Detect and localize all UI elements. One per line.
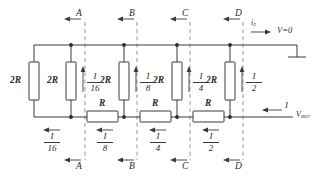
top-rail-group	[34, 45, 306, 62]
cut-arrow-bottom-group	[64, 158, 240, 163]
bottom-current-1-denominator: 8	[97, 142, 113, 153]
shunt-b-current-denominator: 8	[140, 82, 156, 93]
cut-arrow-top-c-head	[170, 17, 176, 22]
bottom-current-3-numerator: I	[203, 132, 219, 142]
cut-label-bottom-c: C	[182, 162, 188, 172]
shunt-a-current-label: I 16	[87, 72, 103, 93]
series-resistor-3	[193, 111, 224, 122]
circuit-diagram-figure: 2R 2R 2R 2R 2R I 16 I 8 I 4 I 2 R R R I …	[0, 0, 321, 177]
shunt-c-current-arrowhead	[187, 66, 192, 72]
node-b-bottom	[122, 115, 126, 119]
cut-label-bottom-d: D	[235, 162, 242, 172]
cut-arrow-top-a-head	[64, 17, 70, 22]
bottom-current-2-denominator: 4	[150, 142, 166, 153]
series-resistor-1-body	[87, 111, 118, 122]
shunt-a-current-numerator: I	[87, 72, 103, 82]
series-resistor-2-body	[140, 111, 171, 122]
source-current-label: I	[285, 101, 288, 110]
series-resistor-1	[87, 111, 118, 122]
cut-label-top-a: A	[76, 9, 82, 19]
bottom-current-label-1: I 8	[97, 132, 113, 153]
cut-arrow-bottom-c-head	[170, 158, 176, 163]
bottom-current-label-2: I 4	[150, 132, 166, 153]
bottom-current-2-numerator: I	[150, 132, 166, 142]
node-c-bottom	[175, 115, 179, 119]
shunt-d-current-numerator: I	[246, 72, 262, 82]
series-resistor-2	[140, 111, 171, 122]
source-current-arrow-group	[262, 108, 282, 113]
cut-arrow-bottom-b-head	[117, 158, 123, 163]
cut-arrow-bottom-a-head	[64, 158, 70, 163]
shunt-d-current-arrowhead	[240, 66, 245, 72]
cut-label-bottom-b: B	[129, 162, 135, 172]
reference-voltage-label: VREF	[296, 111, 310, 120]
shunt-resistor-a-label: 2R	[47, 76, 58, 86]
cut-arrow-top-group	[64, 17, 240, 22]
bottom-current-arrow-group	[43, 128, 219, 133]
shunt-resistor-term-body	[29, 62, 39, 100]
shunt-b-current-arrowhead	[134, 66, 139, 72]
bottom-current-0-denominator: 16	[44, 142, 60, 153]
node-c-top	[175, 43, 179, 47]
cut-label-bottom-a: A	[76, 162, 82, 172]
shunt-branch-a	[66, 43, 85, 119]
series-resistor-1-label: R	[99, 99, 105, 109]
source-current-arrow-head	[262, 108, 268, 113]
node-b-top	[122, 43, 126, 47]
ground-voltage-label: V=0	[277, 26, 292, 35]
sum-current-arrow-head	[265, 30, 271, 35]
shunt-resistor-c-body	[172, 62, 182, 100]
cut-arrow-top-b-head	[117, 17, 123, 22]
shunt-branch-b	[119, 43, 138, 119]
cut-label-top-c: C	[182, 9, 188, 19]
sum-current-arrow-group	[251, 30, 271, 35]
shunt-resistor-a-body	[66, 62, 76, 100]
node-d-bottom	[228, 115, 232, 119]
shunt-resistor-term-label: 2R	[10, 76, 21, 86]
node-a-bottom	[69, 115, 73, 119]
bottom-current-0-numerator: I	[44, 132, 60, 142]
cut-label-top-d: D	[235, 9, 242, 19]
node-a-top	[69, 43, 73, 47]
shunt-b-current-label: I 8	[140, 72, 156, 93]
shunt-a-current-denominator: 16	[87, 82, 103, 93]
shunt-c-current-numerator: I	[193, 72, 209, 82]
series-resistor-2-label: R	[152, 99, 158, 109]
bottom-current-label-0: I 16	[44, 132, 60, 153]
shunt-resistor-b-body	[119, 62, 129, 100]
series-resistor-3-label: R	[205, 99, 211, 109]
shunt-branch-c	[172, 43, 191, 119]
shunt-c-current-denominator: 4	[193, 82, 209, 93]
bottom-current-label-3: I 2	[203, 132, 219, 153]
shunt-b-current-numerator: I	[140, 72, 156, 82]
series-resistor-3-body	[193, 111, 224, 122]
bottom-current-1-numerator: I	[97, 132, 113, 142]
shunt-d-current-label: I 2	[246, 72, 262, 93]
shunt-d-current-denominator: 2	[246, 82, 262, 93]
cut-label-top-b: B	[129, 9, 135, 19]
shunt-c-current-label: I 4	[193, 72, 209, 93]
cut-arrow-bottom-d-head	[223, 158, 229, 163]
shunt-resistor-term	[29, 62, 39, 100]
bottom-current-3-denominator: 2	[203, 142, 219, 153]
node-d-top	[228, 43, 232, 47]
reference-voltage-subscript: REF	[301, 114, 310, 119]
sum-current-label: iΣ	[251, 19, 256, 28]
sum-current-subscript: Σ	[253, 22, 256, 27]
cut-arrow-top-d-head	[223, 17, 229, 22]
shunt-resistor-d-body	[225, 62, 235, 100]
shunt-branch-d	[225, 43, 244, 119]
